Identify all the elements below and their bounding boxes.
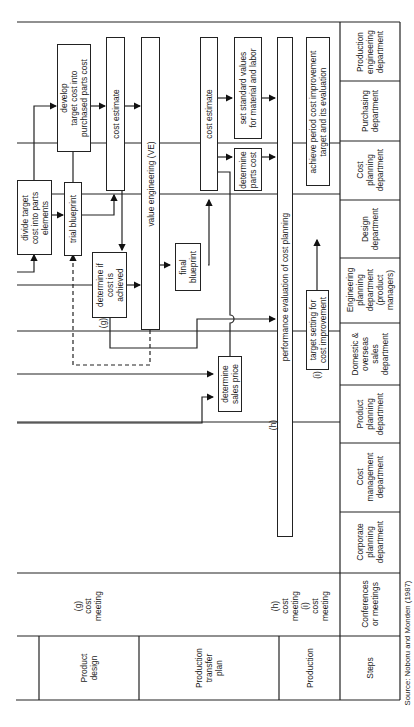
dept-engineering-planning: Engineering planning department (product… [345,268,395,313]
develop-target-cost-box: develop target cost into purchased parts… [57,44,91,152]
value-engineering-box: value engineering (VE) [141,37,160,330]
trial-blueprint-box: trial blueprint [64,182,82,256]
determine-sales-price-box: determine sales price [218,356,242,412]
target-setting-box: target setting for cost improvement [306,290,329,370]
dept-production-engineering: Production engineering department [355,30,385,74]
header-steps: Steps [365,657,375,678]
final-blueprint-box: final blueprint [175,243,201,291]
set-standard-values-label: set standard values for material and lab… [238,48,258,127]
cost-estimate-2-label: cost estimate [204,89,214,138]
dept-corporate-planning: Corporate planning department [355,521,385,563]
performance-evaluation-label: performance evaluation of cost planning [280,213,290,362]
dept-product-planning: Product planning department [355,393,385,435]
achieve-period-cost-label: achieve period cost improvement target a… [308,50,328,173]
step-production-transfer-plan: Production transfer plan [194,648,224,688]
divide-target-cost-box: divide target cost into parts elements [17,180,52,255]
dept-cost-planning: Cost planning department [355,149,385,191]
cost-estimate-1-box: cost estimate [106,37,125,191]
performance-evaluation-box: performance evaluation of cost planning [277,37,293,537]
cost-planning-flowchart: divide target cost into parts elements d… [0,0,414,727]
cost-estimate-2-box: cost estimate [200,37,218,191]
determine-parts-cost-box: determine parts cost [234,148,262,191]
meeting-h-i: (h) cost meeting (i) cost meeting [270,591,330,621]
meeting-g: (g) cost meeting [73,591,103,621]
determine-parts-cost-label: determine parts cost [238,151,258,188]
determine-cost-achieved-box: determine if cost is achieved [92,252,127,318]
step-production: Production [305,648,315,688]
dept-domestic-overseas-sales: Domestic & overseas sales department [350,333,390,376]
determine-sales-price-label: determine sales price [220,364,240,404]
set-standard-values-box: set standard values for material and lab… [234,37,262,139]
marker-h: (h) [268,420,278,430]
final-blueprint-label: final blueprint [178,251,198,283]
trial-blueprint-label: trial blueprint [68,195,78,243]
dept-cost-management: Cost management department [355,453,385,502]
divide-target-cost-label: divide target cost into parts elements [20,191,50,243]
step-product-design: Product design [79,654,99,683]
cost-estimate-1-label: cost estimate [111,89,121,138]
dept-design: Design department [360,208,380,250]
dept-purchasing: Purchasing department [360,90,380,132]
source-citation: Source: Noboru and Monden (1987) [403,581,413,706]
value-engineering-label: value engineering (VE) [146,141,156,226]
develop-target-cost-label: develop target cost into purchased parts… [59,59,89,137]
marker-g: (g) [98,318,108,328]
determine-cost-achieved-label: determine if cost is achieved [95,263,125,307]
header-conferences-meetings: Conferences or meetings [360,580,380,628]
target-setting-label: target setting for cost improvement [308,297,328,363]
marker-i: (i) [312,371,322,378]
achieve-period-cost-box: achieve period cost improvement target a… [306,37,330,186]
